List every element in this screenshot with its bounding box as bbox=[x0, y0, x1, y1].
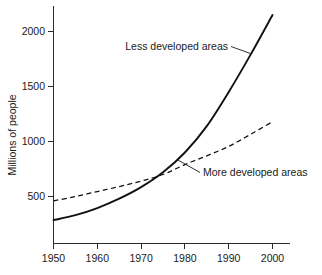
y-tick-label-1000: 1000 bbox=[22, 135, 46, 147]
y-tick-label-500: 500 bbox=[27, 190, 45, 202]
chart-canvas: 500 1000 1500 2000 1950 1960 1970 1980 1… bbox=[0, 0, 322, 275]
y-tick-label-1500: 1500 bbox=[22, 80, 46, 92]
population-line-chart: 500 1000 1500 2000 1950 1960 1970 1980 1… bbox=[0, 0, 322, 275]
x-tick-label-2000: 2000 bbox=[261, 252, 285, 264]
x-tick-label-1970: 1970 bbox=[129, 252, 153, 264]
y-tick-label-2000: 2000 bbox=[22, 25, 46, 37]
x-tick-label-1980: 1980 bbox=[173, 252, 197, 264]
annotation-label-more-developed: More developed areas bbox=[203, 166, 307, 178]
x-tick-label-1950: 1950 bbox=[42, 252, 66, 264]
x-tick-label-1990: 1990 bbox=[217, 252, 241, 264]
x-tick-label-1960: 1960 bbox=[86, 252, 110, 264]
y-axis-title: Millions of people bbox=[6, 94, 18, 175]
annotation-label-less-developed: Less developed areas bbox=[125, 40, 228, 52]
